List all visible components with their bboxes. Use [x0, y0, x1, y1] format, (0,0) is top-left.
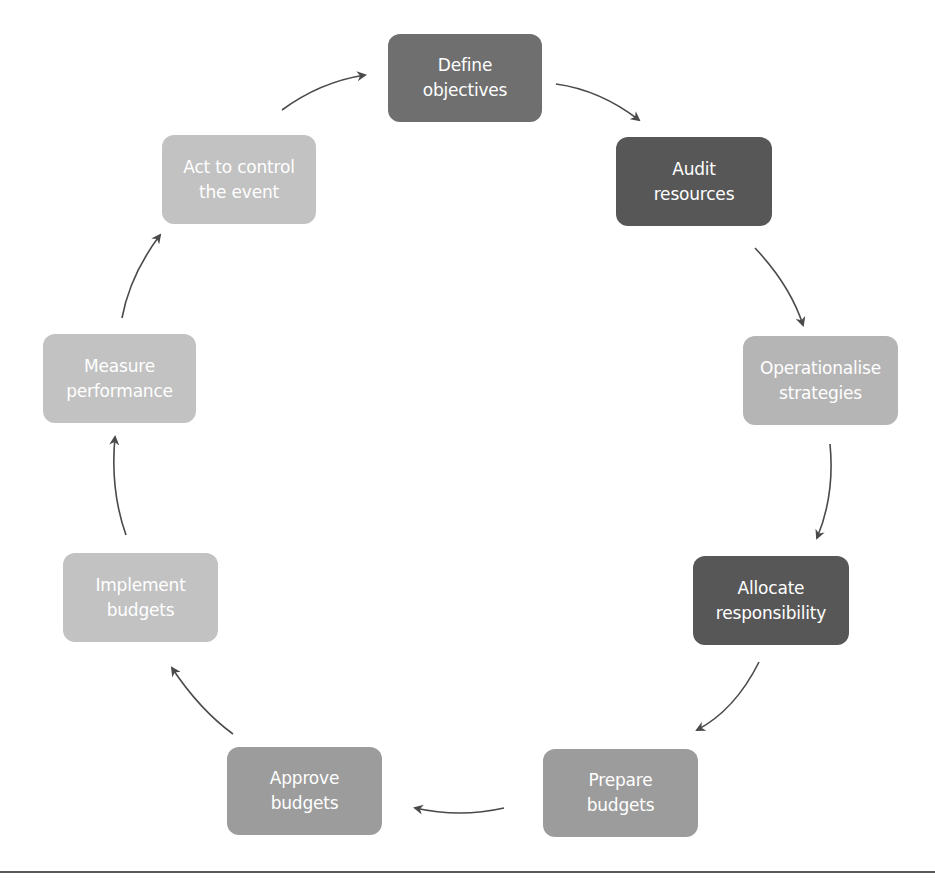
node-audit-resources: Audit resources	[616, 137, 772, 226]
node-define-objectives: Define objectives	[388, 34, 542, 122]
node-label-line1: Prepare	[589, 768, 653, 793]
node-measure-performance: Measure performance	[43, 334, 196, 423]
arrow-implement-to-measure	[114, 437, 126, 535]
node-label-line1: Audit	[672, 157, 716, 182]
node-label-line2: the event	[199, 180, 279, 205]
arrow-allocate-to-prepare	[697, 662, 759, 730]
node-label-line2: budgets	[587, 793, 655, 818]
node-label-line2: resources	[654, 182, 735, 207]
bottom-rule	[0, 871, 935, 873]
node-label-line1: Measure	[84, 354, 155, 379]
arrow-prepare-to-approve	[415, 808, 504, 813]
node-label-line2: performance	[66, 379, 173, 404]
arrow-define-to-audit	[556, 84, 639, 120]
node-label-line1: Allocate	[738, 576, 805, 601]
node-prepare-budgets: Prepare budgets	[543, 749, 698, 837]
node-label-line1: Approve	[270, 766, 339, 791]
arrow-approve-to-implement	[172, 668, 233, 734]
node-approve-budgets: Approve budgets	[227, 747, 382, 835]
cycle-arrows	[0, 0, 935, 888]
node-label-line2: responsibility	[716, 601, 826, 626]
arrow-audit-to-operationalise	[755, 248, 803, 325]
arrow-measure-to-act	[122, 235, 160, 318]
node-act-to-control: Act to control the event	[162, 135, 316, 224]
node-label-line1: Implement	[95, 573, 185, 598]
node-label-line2: budgets	[107, 598, 175, 623]
node-label-line1: Operationalise	[760, 356, 881, 381]
node-allocate-responsibility: Allocate responsibility	[693, 556, 849, 645]
node-label-line1: Define	[438, 53, 492, 78]
node-label-line2: strategies	[779, 381, 862, 406]
arrow-operationalise-to-allocate	[817, 444, 831, 538]
node-label-line2: objectives	[423, 78, 508, 103]
node-operationalise-strategies: Operationalise strategies	[743, 336, 898, 425]
node-label-line2: budgets	[271, 791, 339, 816]
node-label-line1: Act to control	[183, 155, 294, 180]
node-implement-budgets: Implement budgets	[63, 553, 218, 642]
arrow-act-to-define	[282, 75, 365, 110]
